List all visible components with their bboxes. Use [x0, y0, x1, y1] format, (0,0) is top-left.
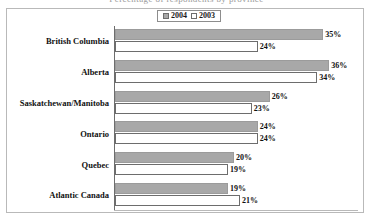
bar-row: British Columbia35%24% — [114, 26, 358, 57]
legend-swatch-2003-icon — [191, 13, 197, 19]
bar-group-2004: 35% — [115, 29, 341, 40]
bar-value-label: 21% — [242, 196, 258, 205]
bar-group-2004: 36% — [115, 60, 347, 71]
category-label: Atlantic Canada — [0, 180, 109, 211]
bar-row: Quebec20%19% — [114, 149, 358, 180]
bar-group-2003: 21% — [115, 195, 258, 206]
bar-value-label: 23% — [254, 104, 270, 113]
bar-2004 — [115, 60, 329, 71]
bar-2003 — [115, 164, 228, 175]
clipped-title-text: Percentage of respondents by province — [0, 0, 373, 5]
bar-value-label: 24% — [260, 42, 276, 51]
legend-swatch-2004-icon — [163, 13, 169, 19]
bar-group-2003: 24% — [115, 133, 276, 144]
bar-value-label: 35% — [325, 30, 341, 39]
bar-2004 — [115, 121, 258, 132]
bar-2003 — [115, 133, 258, 144]
bar-value-label: 26% — [272, 92, 288, 101]
bar-group-2003: 23% — [115, 103, 270, 114]
bar-2004 — [115, 152, 234, 163]
bar-row: Saskatchewan/Manitoba26%23% — [114, 88, 358, 119]
bar-chart: Percentage of respondents by province 20… — [0, 0, 373, 220]
bar-value-label: 24% — [260, 134, 276, 143]
category-label: Ontario — [0, 118, 109, 149]
legend-label-2004: 2004 — [171, 12, 187, 20]
bar-group-2003: 34% — [115, 72, 335, 83]
chart-legend: 2004 2003 — [157, 10, 221, 22]
bar-2003 — [115, 103, 252, 114]
category-label: Alberta — [0, 57, 109, 88]
bar-group-2004: 19% — [115, 183, 246, 194]
bar-value-label: 36% — [331, 61, 347, 70]
bar-value-label: 20% — [236, 153, 252, 162]
bar-group-2004: 24% — [115, 121, 276, 132]
bar-group-2004: 26% — [115, 91, 288, 102]
legend-item-2003: 2003 — [191, 12, 215, 20]
bar-group-2004: 20% — [115, 152, 252, 163]
category-label: Saskatchewan/Manitoba — [0, 88, 109, 119]
bar-2004 — [115, 91, 270, 102]
bar-value-label: 24% — [260, 122, 276, 131]
bar-2003 — [115, 72, 317, 83]
plot-area: British Columbia35%24%Alberta36%34%Saska… — [114, 26, 358, 211]
bar-group-2003: 19% — [115, 164, 246, 175]
legend-label-2003: 2003 — [199, 12, 215, 20]
bar-value-label: 34% — [319, 73, 335, 82]
bar-2004 — [115, 29, 323, 40]
category-label: British Columbia — [0, 26, 109, 57]
bar-value-label: 19% — [230, 184, 246, 193]
bar-group-2003: 24% — [115, 41, 276, 52]
category-label: Quebec — [0, 149, 109, 180]
bar-2003 — [115, 195, 240, 206]
bar-2003 — [115, 41, 258, 52]
bar-rows: British Columbia35%24%Alberta36%34%Saska… — [114, 26, 358, 211]
bar-row: Alberta36%34% — [114, 57, 358, 88]
bar-2004 — [115, 183, 228, 194]
bar-row: Ontario24%24% — [114, 118, 358, 149]
bar-value-label: 19% — [230, 165, 246, 174]
bar-row: Atlantic Canada19%21% — [114, 180, 358, 211]
legend-item-2004: 2004 — [163, 12, 187, 20]
